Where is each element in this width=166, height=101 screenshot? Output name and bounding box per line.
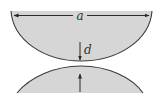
lens-gap-diagram: a d (0, 0, 166, 101)
gap-label: d (84, 43, 92, 57)
width-label: a (76, 9, 83, 23)
